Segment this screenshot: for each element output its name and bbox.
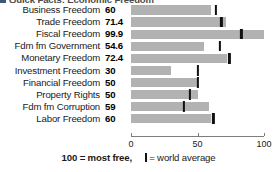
value-bar (131, 54, 227, 63)
row-value: 60 (100, 5, 131, 15)
row-label: Fiscal Freedom (0, 29, 100, 39)
value-bar (131, 5, 211, 14)
chart-row: Investment Freedom30 (0, 64, 277, 76)
row-plot (131, 52, 276, 64)
row-value: 72.4 (100, 53, 131, 63)
row-label: Financial Freedom (0, 78, 100, 88)
axis-tickmark (198, 133, 199, 136)
axis-tick-label: 50 (192, 139, 202, 149)
row-label: Fdm fm Government (0, 41, 100, 51)
value-bar (131, 30, 264, 39)
world-average-marker (183, 101, 185, 112)
row-plot (131, 77, 276, 89)
value-bar (131, 66, 171, 75)
row-value: 54.6 (100, 41, 131, 51)
chart-title-text: Quick Facts: Economic Freedom (9, 0, 154, 3)
value-bar (131, 17, 226, 26)
row-label: Business Freedom (0, 5, 100, 15)
value-bar (131, 78, 198, 87)
row-plot (131, 101, 276, 113)
row-value: 30 (100, 66, 131, 76)
row-value: 50 (100, 90, 131, 100)
axis-tickmark (264, 133, 265, 136)
bullet-icon (0, 0, 6, 3)
row-plot (131, 28, 276, 40)
axis-tick-label: 100 (256, 139, 271, 149)
chart-row: Monetary Freedom72.4 (0, 52, 277, 64)
world-average-marker (215, 5, 217, 16)
chart-row: Financial Freedom50 (0, 77, 277, 89)
value-bar (131, 114, 211, 123)
economic-freedom-chart: Quick Facts: Economic Freedom Business F… (0, 0, 277, 172)
value-bar (131, 42, 204, 51)
row-label: Property Rights (0, 90, 100, 100)
row-value: 99.9 (100, 29, 131, 39)
row-plot (131, 89, 276, 101)
footnote-world-average: = world average (149, 152, 215, 163)
row-label: Investment Freedom (0, 66, 100, 76)
chart-row: Fdm fm Corruption59 (0, 101, 277, 113)
row-label: Fdm fm Corruption (0, 102, 100, 112)
row-label: Monetary Freedom (0, 53, 100, 63)
chart-row: Fdm fm Government54.6 (0, 40, 277, 52)
world-average-marker (212, 113, 214, 124)
world-average-marker (196, 77, 198, 88)
chart-row: Property Rights50 (0, 89, 277, 101)
world-average-tick-icon (145, 153, 147, 163)
chart-title-clipped: Quick Facts: Economic Freedom (0, 0, 190, 3)
world-average-marker (240, 29, 242, 40)
row-label: Trade Freedom (0, 17, 100, 27)
world-average-marker (188, 89, 190, 100)
axis-tick-label: 0 (128, 139, 133, 149)
row-value: 60 (100, 114, 131, 124)
row-value: 50 (100, 78, 131, 88)
chart-row: Labor Freedom60 (0, 113, 277, 125)
chart-row: Fiscal Freedom99.9 (0, 28, 277, 40)
row-value: 71.4 (100, 17, 131, 27)
value-bar (131, 102, 209, 111)
chart-rows: Business Freedom60Trade Freedom71.4Fisca… (0, 4, 277, 125)
chart-row: Trade Freedom71.4 (0, 16, 277, 28)
row-plot (131, 40, 276, 52)
world-average-marker (219, 41, 221, 52)
chart-footnote: 100 = most free,= world average (0, 152, 277, 163)
row-value: 59 (100, 102, 131, 112)
world-average-marker (228, 53, 230, 64)
footnote-most-free: 100 = most free, (62, 152, 132, 163)
world-average-marker (196, 65, 198, 76)
chart-row: Business Freedom60 (0, 4, 277, 16)
axis-tickmark (131, 133, 132, 136)
row-plot (131, 16, 276, 28)
row-plot (131, 113, 276, 125)
row-plot (131, 64, 276, 76)
row-plot (131, 4, 276, 16)
row-label: Labor Freedom (0, 114, 100, 124)
world-average-marker (220, 17, 222, 28)
axis-line (131, 136, 264, 137)
